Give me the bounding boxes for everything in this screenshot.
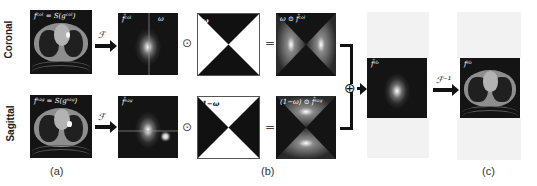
masked-coronal-label: ω ⊙ f̂ᶜᵒˡ xyxy=(280,15,305,23)
coronal-spectrum: f̂ᶜᵒˡ ω xyxy=(118,13,178,75)
hadamard-operator-bottom: ⊙ xyxy=(182,120,192,134)
connector-line xyxy=(350,92,353,130)
ghost-background xyxy=(367,118,429,158)
equals-operator-top: = xyxy=(265,36,275,50)
arrow-icon xyxy=(433,88,453,92)
connector-line xyxy=(350,44,353,84)
masked-sagittal-spectrum: (1−ω) ⊙ f̂ˢᵃᵍ xyxy=(276,96,336,159)
fourier-operator-top: ℱ xyxy=(98,30,105,40)
inverse-fourier-operator: ℱ⁻¹ xyxy=(436,75,451,85)
coronal-ct-image: fᶜᵒˡ = S(gᶜᵒˡ) xyxy=(30,10,92,74)
sum-operator: ⊕ xyxy=(344,80,356,96)
ghost-background xyxy=(457,12,521,58)
sagittal-spectrum-label: f̂ˢᵃᵍ xyxy=(122,98,132,106)
sagittal-spectrum: f̂ˢᵃᵍ xyxy=(118,96,178,158)
ghost-background xyxy=(367,12,429,60)
sagittal-image-label: fˢᵃᵍ = S(gˢᵃᵍ) xyxy=(34,97,77,105)
caption-c: (c) xyxy=(482,165,495,177)
masked-sagittal-label: (1−ω) ⊙ f̂ˢᵃᵍ xyxy=(280,98,322,106)
arrow-icon xyxy=(95,44,111,48)
coronal-spectrum-corner-label: ω xyxy=(158,15,164,23)
output-image-label: fˢᵇ xyxy=(464,60,472,68)
arrow-icon xyxy=(95,125,111,129)
row-label-coronal: Coronal xyxy=(3,21,14,59)
omega-mask-label: ω xyxy=(202,16,209,25)
hadamard-operator-top: ⊙ xyxy=(182,36,192,50)
one-minus-omega-mask: 1−ω xyxy=(197,96,260,159)
one-minus-omega-label: 1−ω xyxy=(202,99,219,108)
omega-mask: ω xyxy=(197,13,260,76)
ghost-background xyxy=(457,118,521,160)
caption-a: (a) xyxy=(50,165,63,177)
arrow-icon xyxy=(357,87,361,90)
equals-operator-bottom: = xyxy=(265,120,275,134)
coronal-image-label: fᶜᵒˡ = S(gᶜᵒˡ) xyxy=(34,12,75,20)
output-ct-image: fˢᵇ xyxy=(460,58,520,118)
caption-b: (b) xyxy=(261,165,274,177)
masked-coronal-spectrum: ω ⊙ f̂ᶜᵒˡ xyxy=(276,13,336,76)
fused-spectrum: f̂ˢᵇ xyxy=(367,58,427,118)
sagittal-ct-image: fˢᵃᵍ = S(gˢᵃᵍ) xyxy=(30,95,92,158)
fourier-operator-bottom: ℱ xyxy=(98,112,105,122)
coronal-spectrum-label: f̂ᶜᵒˡ xyxy=(122,15,131,23)
fused-spectrum-label: f̂ˢᵇ xyxy=(371,60,379,68)
row-label-sagittal: Sagittal xyxy=(5,105,16,141)
